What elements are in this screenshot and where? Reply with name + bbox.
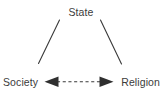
- node-label-religion: Religion: [121, 77, 160, 88]
- edge-state-society: [39, 20, 60, 64]
- node-label-society: Society: [3, 77, 38, 88]
- diagram-canvas: State Society Religion: [0, 0, 162, 98]
- arrowhead-left-icon: [45, 77, 59, 87]
- node-label-state: State: [0, 7, 162, 18]
- edge-state-religion: [101, 20, 122, 64]
- arrowhead-right-icon: [100, 77, 114, 87]
